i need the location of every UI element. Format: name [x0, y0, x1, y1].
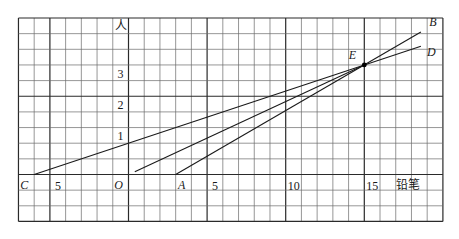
- labels: 人 铅笔 COAEBD551015123: [20, 15, 437, 192]
- point-label-C: C: [20, 178, 29, 192]
- point-label-D: D: [426, 45, 436, 59]
- coordinate-grid-diagram: 人 铅笔 COAEBD551015123: [0, 0, 459, 239]
- point-label-B: B: [429, 15, 437, 29]
- point-E-dot: [362, 63, 367, 68]
- line-segments: [34, 32, 421, 174]
- y-axis-label: 人: [115, 19, 127, 33]
- x-tick-label: 5: [212, 179, 218, 193]
- point-label-E: E: [348, 48, 357, 62]
- x-tick-label: 10: [288, 179, 300, 193]
- point-label-O: O: [114, 178, 123, 192]
- x-tick-label: 15: [366, 179, 378, 193]
- line-OE: [135, 65, 365, 172]
- point-label-A: A: [177, 178, 186, 192]
- y-tick-label: 3: [118, 67, 124, 81]
- x-axis-label: 铅笔: [396, 177, 420, 192]
- line-AB: [176, 32, 421, 174]
- x-tick-label: 5: [55, 179, 61, 193]
- y-tick-label: 2: [118, 98, 124, 112]
- grid: [18, 18, 442, 221]
- y-tick-label: 1: [118, 129, 124, 143]
